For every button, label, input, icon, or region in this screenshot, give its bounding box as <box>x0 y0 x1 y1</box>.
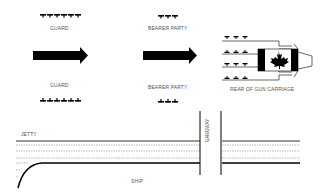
gangway-label: GANGWAY <box>205 119 210 143</box>
gun-carriage-label: REAR OF GUN CARRIAGE <box>230 86 294 92</box>
jetty-lines <box>16 141 300 188</box>
bottom-bearer-party-label: BEARER PARTY <box>148 84 187 90</box>
top-bearer-party-label: BEARER PARTY <box>148 25 187 31</box>
gangway-icon <box>200 111 221 175</box>
bottom-bearer-soldiers-icon <box>158 99 178 103</box>
jetty-label: JETTY <box>21 131 37 137</box>
left-direction-arrow-icon <box>33 47 88 64</box>
bottom-guard-label: GUARD <box>50 82 69 88</box>
top-guard-label: GUARD <box>50 25 69 31</box>
ship-label: SHIP <box>131 178 143 184</box>
gun-carriage-group-icon <box>222 36 312 80</box>
bottom-guard-soldiers-icon <box>40 98 81 102</box>
top-guard-soldiers-icon <box>40 14 81 18</box>
top-bearer-soldiers-icon <box>158 15 178 19</box>
right-direction-arrow-icon <box>143 47 197 64</box>
